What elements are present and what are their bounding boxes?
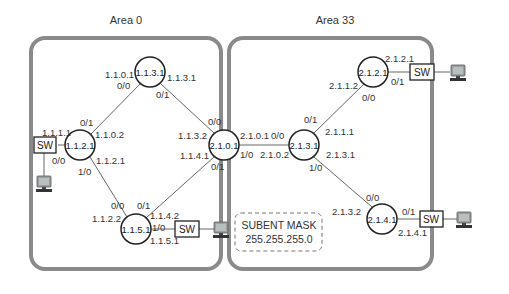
- svg-text:0/1: 0/1: [211, 161, 224, 172]
- svg-text:0/1: 0/1: [391, 76, 404, 87]
- svg-text:1.1.5.1: 1.1.5.1: [150, 235, 179, 246]
- svg-text:2.1.4.1: 2.1.4.1: [398, 227, 427, 238]
- svg-text:2.1.1.1: 2.1.1.1: [325, 126, 354, 137]
- svg-text:2.1.3.1: 2.1.3.1: [326, 149, 355, 160]
- svg-text:SW: SW: [423, 214, 440, 225]
- area-33-title: Area 33: [316, 14, 355, 26]
- computer-icon[interactable]: [456, 212, 472, 228]
- svg-text:0/0: 0/0: [208, 116, 221, 127]
- svg-text:1/0: 1/0: [78, 166, 91, 177]
- router-2-1-2-1[interactable]: 2.1.2.1: [358, 57, 388, 87]
- svg-text:2.1.3.1: 2.1.3.1: [289, 140, 318, 151]
- svg-text:1.1.2.1: 1.1.2.1: [65, 140, 94, 151]
- svg-text:SW: SW: [414, 67, 431, 78]
- svg-text:2.1.0.2: 2.1.0.2: [260, 149, 289, 160]
- svg-text:0/1: 0/1: [402, 206, 415, 217]
- svg-text:2.1.4.1: 2.1.4.1: [367, 214, 396, 225]
- router-1-1-3-1[interactable]: 1.1.3.1: [135, 57, 165, 87]
- svg-text:0/1: 0/1: [80, 117, 93, 128]
- router-2-1-0-1[interactable]: 2.1.0.1: [209, 130, 239, 160]
- svg-text:1/0: 1/0: [152, 222, 165, 233]
- subnet-mask-title: SUBENT MASK: [241, 219, 316, 231]
- svg-text:2.1.0.1: 2.1.0.1: [209, 140, 238, 151]
- svg-text:1.1.3.2: 1.1.3.2: [178, 130, 207, 141]
- svg-text:0/0: 0/0: [52, 155, 65, 166]
- svg-text:0/0: 0/0: [366, 192, 379, 203]
- switch-top-right[interactable]: SW: [410, 64, 434, 80]
- ospf-network-diagram: Area 0 Area 33 1.1.3.1 1.1.2.1 2.1.0.1 1…: [0, 0, 509, 294]
- svg-text:1.1.2.2: 1.1.2.2: [92, 213, 121, 224]
- svg-text:1.1.5.1: 1.1.5.1: [121, 224, 150, 235]
- svg-text:1.1.2.1: 1.1.2.1: [96, 155, 125, 166]
- svg-text:0/0: 0/0: [362, 92, 375, 103]
- svg-text:2.1.0.1: 2.1.0.1: [240, 130, 269, 141]
- svg-text:1.1.3.1: 1.1.3.1: [167, 72, 196, 83]
- svg-text:0/1: 0/1: [304, 114, 317, 125]
- svg-text:2.1.3.2: 2.1.3.2: [332, 206, 361, 217]
- switch-bottom-right[interactable]: SW: [420, 211, 443, 227]
- svg-text:0/1: 0/1: [137, 200, 150, 211]
- link-2101-1151: [146, 157, 214, 218]
- svg-text:1.1.4.2: 1.1.4.2: [150, 210, 179, 221]
- svg-text:1.1.3.1: 1.1.3.1: [135, 67, 164, 78]
- svg-text:0/0: 0/0: [117, 80, 130, 91]
- svg-text:SW: SW: [179, 224, 196, 235]
- link-1131-1121: [91, 84, 140, 134]
- svg-text:0/0: 0/0: [111, 200, 124, 211]
- switch-left[interactable]: SW: [34, 137, 56, 153]
- svg-text:1/0: 1/0: [240, 149, 253, 160]
- svg-text:1.1.1.1: 1.1.1.1: [42, 127, 71, 138]
- area-0-title: Area 0: [110, 14, 142, 26]
- router-2-1-4-1[interactable]: 2.1.4.1: [367, 204, 397, 234]
- link-2131-2141: [314, 157, 372, 207]
- svg-text:2.1.1.2: 2.1.1.2: [329, 80, 358, 91]
- subnet-mask-value: 255.255.255.0: [245, 233, 312, 245]
- svg-text:1/0: 1/0: [309, 162, 322, 173]
- computer-icon[interactable]: [450, 65, 466, 81]
- router-2-1-3-1[interactable]: 2.1.3.1: [289, 130, 319, 160]
- svg-text:0/1: 0/1: [156, 89, 169, 100]
- subnet-mask-note: SUBENT MASK 255.255.255.0: [235, 213, 322, 251]
- computer-icon[interactable]: [213, 222, 229, 238]
- svg-text:0/0: 0/0: [271, 130, 284, 141]
- svg-text:2.1.2.1: 2.1.2.1: [385, 53, 414, 64]
- computer-icon[interactable]: [36, 176, 52, 192]
- svg-text:SW: SW: [37, 140, 54, 151]
- svg-text:1.1.0.1: 1.1.0.1: [105, 69, 134, 80]
- router-1-1-5-1[interactable]: 1.1.5.1: [121, 214, 151, 244]
- svg-text:2.1.2.1: 2.1.2.1: [358, 67, 387, 78]
- svg-text:1.1.0.2: 1.1.0.2: [95, 129, 124, 140]
- svg-text:1.1.4.1: 1.1.4.1: [180, 150, 209, 161]
